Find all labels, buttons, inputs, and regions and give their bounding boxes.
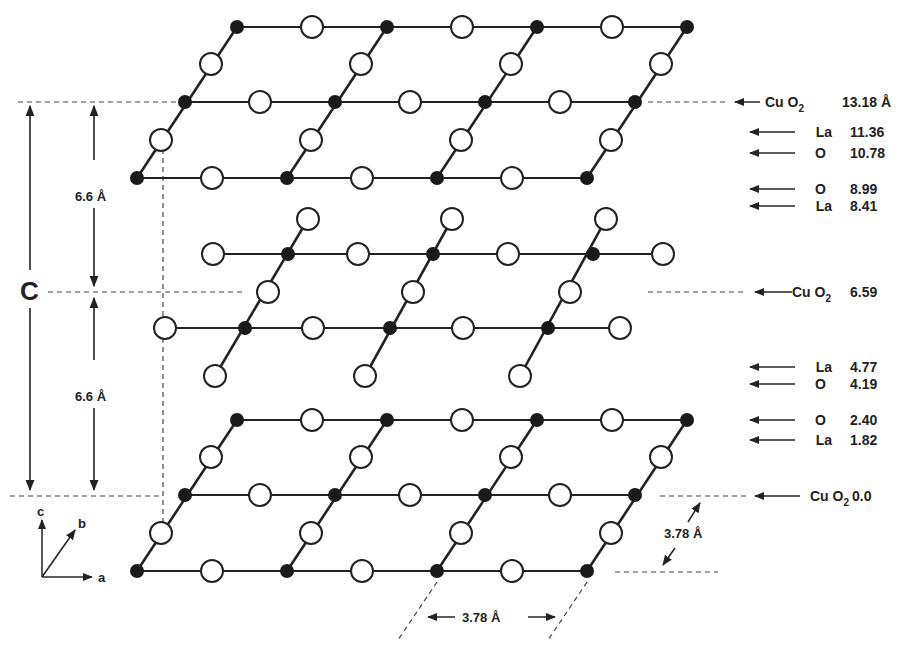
o-atom bbox=[601, 16, 623, 38]
o-atom bbox=[300, 129, 322, 151]
o-atom bbox=[350, 53, 372, 75]
layer-label: O10.78 bbox=[750, 145, 885, 161]
o-atom bbox=[201, 167, 223, 189]
o-atom bbox=[300, 522, 322, 544]
layer-height: 11.36 bbox=[850, 124, 884, 140]
o-atom bbox=[351, 560, 373, 582]
layer-species: Cu O2 bbox=[792, 284, 831, 304]
o-atom bbox=[451, 16, 473, 38]
layer-height: 2.40 bbox=[850, 412, 877, 428]
layer-species: O bbox=[815, 376, 826, 392]
cu-atom bbox=[680, 413, 694, 427]
o-atom bbox=[559, 281, 581, 303]
cu-atom bbox=[628, 95, 642, 109]
cu-atom bbox=[383, 321, 397, 335]
layer-species: La bbox=[816, 359, 833, 375]
o-atom bbox=[297, 208, 319, 230]
o-atom bbox=[202, 243, 224, 265]
cu-atom bbox=[580, 564, 594, 578]
o-atom bbox=[201, 560, 223, 582]
cu-atom bbox=[530, 413, 544, 427]
o-atom bbox=[150, 129, 172, 151]
cu-atom bbox=[430, 171, 444, 185]
o-atom bbox=[609, 317, 631, 339]
o-atom bbox=[600, 129, 622, 151]
cu-atom bbox=[530, 20, 544, 34]
layer-height-labels: Cu O213.18 ÅLa11.36O10.78O8.99La8.41Cu O… bbox=[735, 94, 891, 508]
layer-height: 8.99 bbox=[850, 181, 877, 197]
o-atom bbox=[257, 281, 279, 303]
o-atom bbox=[302, 317, 324, 339]
layer-label: Cu O26.59 bbox=[755, 284, 877, 304]
layer-species: Cu O2 bbox=[765, 94, 804, 114]
layer-label: O8.99 bbox=[750, 181, 877, 197]
layer-species: La bbox=[816, 198, 833, 214]
o-atom bbox=[501, 560, 523, 582]
cu-atom bbox=[328, 488, 342, 502]
layer-height: 4.77 bbox=[850, 359, 877, 375]
cu-atom bbox=[178, 488, 192, 502]
atom-lattice bbox=[130, 16, 694, 582]
layer-label: O4.19 bbox=[750, 376, 877, 392]
o-atom bbox=[451, 409, 473, 431]
o-atom bbox=[399, 484, 421, 506]
cu-atom bbox=[680, 20, 694, 34]
layer-label: Cu O20.0 bbox=[755, 488, 872, 508]
cu-atom bbox=[328, 95, 342, 109]
cu-atom bbox=[230, 20, 244, 34]
axis-b-label: b bbox=[78, 516, 86, 531]
layer-height: 10.78 bbox=[850, 145, 885, 161]
layer-label: O2.40 bbox=[750, 412, 877, 428]
layer-label: La8.41 bbox=[750, 198, 877, 214]
layer-species: La bbox=[816, 124, 833, 140]
layer-species: Cu O2 bbox=[810, 488, 849, 508]
cu-atom bbox=[430, 564, 444, 578]
o-atom bbox=[402, 281, 424, 303]
crystal-structure-diagram: C 6.6 Å 6.6 Å c b a 3.78 Å 3.78 Å Cu O21… bbox=[0, 0, 909, 654]
o-atom bbox=[601, 409, 623, 431]
cu-atom bbox=[478, 488, 492, 502]
o-atom bbox=[441, 208, 463, 230]
o-atom bbox=[350, 446, 372, 468]
o-atom bbox=[595, 208, 617, 230]
o-atom bbox=[452, 317, 474, 339]
lattice-a-label: 3.78 Å bbox=[462, 610, 501, 625]
cu-atom bbox=[230, 413, 244, 427]
cu-atom bbox=[281, 247, 295, 261]
o-atom bbox=[497, 243, 519, 265]
layer-height: 8.41 bbox=[850, 198, 877, 214]
cu-atom bbox=[586, 247, 600, 261]
o-atom bbox=[354, 365, 376, 387]
o-atom bbox=[600, 522, 622, 544]
cu-atom bbox=[478, 95, 492, 109]
cu-atom bbox=[280, 564, 294, 578]
o-atom bbox=[200, 446, 222, 468]
cu-atom bbox=[130, 171, 144, 185]
o-atom bbox=[301, 409, 323, 431]
axis-c-label: c bbox=[37, 504, 44, 519]
o-atom bbox=[549, 91, 571, 113]
cu-atom bbox=[130, 564, 144, 578]
cu-atom bbox=[628, 488, 642, 502]
layer-height: 1.82 bbox=[850, 432, 877, 448]
layer-label: La11.36 bbox=[750, 124, 884, 140]
cell-axis-label: C bbox=[20, 276, 39, 306]
spacing-lower-label: 6.6 Å bbox=[75, 389, 107, 404]
cu-atom bbox=[380, 413, 394, 427]
o-atom bbox=[154, 317, 176, 339]
layer-height: 4.19 bbox=[850, 376, 877, 392]
o-atom bbox=[500, 446, 522, 468]
o-atom bbox=[249, 484, 271, 506]
cu-atom bbox=[238, 321, 252, 335]
reference-dashed-lines bbox=[10, 102, 750, 640]
cu-atom bbox=[541, 321, 555, 335]
layer-species: La bbox=[816, 432, 833, 448]
o-atom bbox=[500, 53, 522, 75]
layer-label: Cu O213.18 Å bbox=[735, 94, 891, 114]
cu-atom bbox=[580, 171, 594, 185]
axis-a-label: a bbox=[98, 570, 106, 585]
o-atom bbox=[652, 243, 674, 265]
cu-atom bbox=[426, 247, 440, 261]
o-atom bbox=[399, 91, 421, 113]
cu-atom bbox=[380, 20, 394, 34]
